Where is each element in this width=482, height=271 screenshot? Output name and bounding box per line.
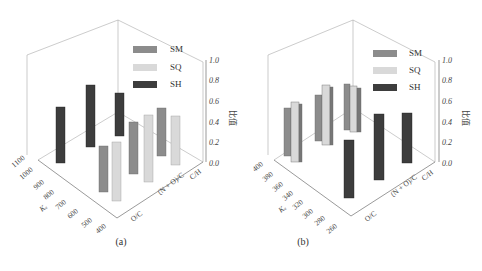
- svg-text:C/H: C/H: [188, 166, 204, 181]
- svg-text:260: 260: [325, 221, 340, 235]
- legend-a: [133, 46, 157, 88]
- svg-text:900: 900: [32, 177, 47, 191]
- svg-text:0.0: 0.0: [209, 159, 219, 168]
- z-axis-label-b: 比值: [461, 110, 471, 126]
- svg-text:600: 600: [66, 206, 81, 220]
- svg-text:0.2: 0.2: [209, 138, 219, 147]
- legend-a-sm: SM: [170, 44, 183, 54]
- svg-text:300: 300: [301, 206, 316, 220]
- svg-text:O/C: O/C: [129, 209, 144, 224]
- svg-text:(N + O)/C: (N + O)/C: [156, 170, 186, 196]
- svg-text:Kₐ: Kₐ: [37, 202, 49, 214]
- chart-panel-a: 1.0 0.8 0.6 0.4 0.2 0.0 比值 1100 1000 900…: [0, 0, 241, 271]
- svg-text:280: 280: [313, 213, 328, 227]
- caption-a: (a): [106, 236, 136, 247]
- legend-b-sh: SH: [409, 82, 421, 92]
- svg-text:0.6: 0.6: [442, 97, 452, 106]
- svg-text:0.4: 0.4: [209, 118, 219, 127]
- svg-text:400: 400: [251, 159, 266, 173]
- svg-text:0.8: 0.8: [442, 76, 452, 85]
- svg-text:360: 360: [271, 179, 286, 193]
- svg-text:0.0: 0.0: [442, 159, 452, 168]
- svg-text:320: 320: [291, 197, 306, 211]
- svg-text:Kₐ: Kₐ: [276, 203, 288, 215]
- svg-text:1.0: 1.0: [442, 56, 452, 65]
- z-axis-label: 比值: [228, 110, 238, 126]
- svg-text:700: 700: [54, 197, 69, 211]
- svg-text:0.2: 0.2: [442, 138, 452, 147]
- legend-b-sq: SQ: [409, 65, 421, 75]
- chart-a-svg: 1.0 0.8 0.6 0.4 0.2 0.0 比值 1100 1000 900…: [0, 0, 241, 271]
- svg-text:1.0: 1.0: [209, 56, 219, 65]
- svg-text:1100: 1100: [10, 153, 27, 170]
- legend-a-sh: SH: [170, 79, 182, 89]
- svg-text:O/C: O/C: [363, 209, 378, 224]
- svg-text:1000: 1000: [18, 165, 35, 182]
- svg-text:340: 340: [281, 188, 296, 202]
- svg-text:380: 380: [261, 169, 276, 183]
- legend-b: [373, 50, 397, 91]
- legend-b-sm: SM: [409, 48, 422, 58]
- chart-b-svg: 1.0 0.8 0.6 0.4 0.2 0.0 比值 400 380 360 3…: [241, 0, 482, 271]
- svg-text:800: 800: [42, 187, 57, 201]
- svg-text:0.4: 0.4: [442, 118, 452, 127]
- svg-text:0.6: 0.6: [209, 97, 219, 106]
- svg-text:(N + O)/C: (N + O)/C: [389, 172, 419, 198]
- svg-text:500: 500: [80, 215, 95, 229]
- svg-text:0.8: 0.8: [209, 76, 219, 85]
- svg-text:C/H: C/H: [420, 167, 436, 182]
- svg-text:400: 400: [94, 221, 109, 235]
- legend-a-sq: SQ: [170, 62, 182, 72]
- caption-b: (b): [288, 236, 318, 247]
- chart-panel-b: 1.0 0.8 0.6 0.4 0.2 0.0 比值 400 380 360 3…: [241, 0, 482, 271]
